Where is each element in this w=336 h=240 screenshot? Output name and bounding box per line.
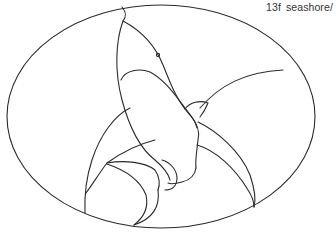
shark-back-line	[117, 7, 170, 180]
curl-wave-mid	[107, 164, 147, 225]
curl-wave-top	[107, 162, 159, 190]
curl-inner-arc	[162, 160, 177, 190]
lower-right-wave-inner	[197, 145, 254, 207]
shark-front-line	[123, 21, 199, 168]
shark-belly-line	[121, 70, 197, 128]
stained-glass-pattern	[0, 0, 336, 240]
shark-tail-tip	[168, 168, 196, 184]
small-arc	[185, 102, 208, 117]
oval-frame	[7, 5, 315, 228]
left-swoosh-outer	[85, 108, 130, 213]
right-wave-line	[200, 70, 283, 108]
lower-right-wave-outer	[198, 122, 255, 207]
